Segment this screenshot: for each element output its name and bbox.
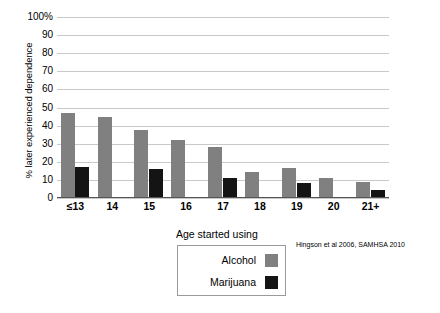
x-axis-title: Age started using	[176, 228, 258, 240]
bar-alcohol	[356, 182, 370, 198]
bar-alcohol	[245, 172, 259, 198]
y-axis-tick-label: 30	[1, 139, 53, 149]
x-axis-tick-label: ≤13	[57, 200, 94, 212]
gridline	[57, 198, 389, 199]
bar-alcohol	[61, 113, 75, 198]
x-axis-tick-label: 21+	[352, 200, 389, 212]
y-axis-tick-label: 80	[1, 48, 53, 58]
bar-groups	[57, 17, 389, 198]
source-citation: Hingson et al 2006, SAMHSA 2010	[296, 241, 405, 248]
y-axis-tick-label: 70	[1, 66, 53, 76]
bar-marijuana	[297, 183, 311, 198]
bar-group	[241, 17, 278, 198]
legend-item-label: Alcohol	[222, 254, 256, 266]
legend-swatch-alcohol	[265, 254, 278, 267]
y-axis-tick-label: 10	[1, 175, 53, 185]
y-axis-tick-label: 40	[1, 121, 53, 131]
legend-item: Alcohol	[182, 249, 278, 271]
x-axis-tick-label: 14	[94, 200, 131, 212]
bar-group	[278, 17, 315, 198]
bar-alcohol	[319, 178, 333, 198]
bar-group	[94, 17, 131, 198]
y-axis-tick-label: 100%	[1, 12, 53, 22]
x-axis-tick-labels: ≤131415161718192021+	[57, 200, 389, 212]
legend-swatch-marijuana	[265, 276, 278, 289]
legend: AlcoholMarijuana	[177, 245, 286, 296]
bar-alcohol	[282, 168, 296, 198]
y-axis-tick-label: 50	[1, 103, 53, 113]
y-axis-tick-labels: 0102030405060708090100%	[0, 17, 53, 198]
bar-group	[352, 17, 389, 198]
bar-alcohol	[208, 147, 222, 198]
plot-area	[57, 17, 389, 198]
x-axis-tick-label: 20	[315, 200, 352, 212]
y-axis-tick-label: 90	[1, 30, 53, 40]
bar-group	[131, 17, 168, 198]
bar-alcohol	[134, 130, 148, 198]
bar-group	[168, 17, 205, 198]
y-axis-tick-label: 20	[1, 157, 53, 167]
legend-item-label: Marijuana	[210, 276, 256, 288]
bar-group	[57, 17, 94, 198]
x-axis-tick-label: 19	[278, 200, 315, 212]
bar-group	[205, 17, 242, 198]
legend-item: Marijuana	[182, 271, 278, 293]
bar-group	[315, 17, 352, 198]
x-axis-tick-label: 15	[131, 200, 168, 212]
x-axis-tick-label: 16	[168, 200, 205, 212]
bar-marijuana	[223, 178, 237, 198]
bar-chart: % later experienced dependence 010203040…	[0, 0, 440, 313]
bar-marijuana	[149, 169, 163, 198]
x-axis-tick-label: 18	[241, 200, 278, 212]
y-axis-tick-label: 0	[1, 193, 53, 203]
bar-marijuana	[75, 167, 89, 198]
bar-alcohol	[98, 117, 112, 198]
x-axis-line	[57, 197, 389, 198]
y-axis-tick-label: 60	[1, 84, 53, 94]
x-axis-tick-label: 17	[205, 200, 242, 212]
bar-alcohol	[171, 140, 185, 198]
